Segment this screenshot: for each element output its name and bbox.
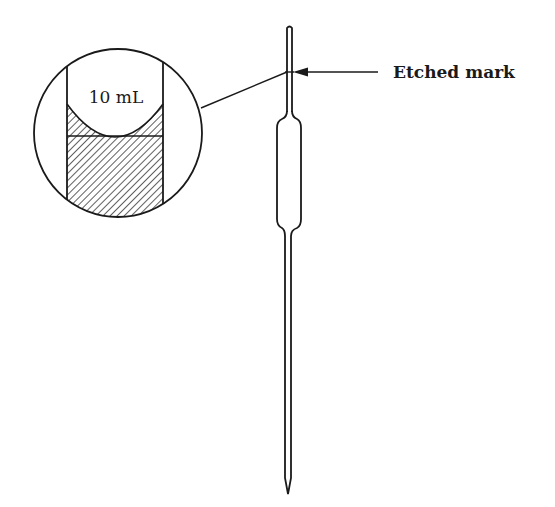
pipette-upper-stem bbox=[287, 27, 292, 113]
etched-mark-arrow bbox=[293, 68, 378, 77]
pipette-bulb bbox=[277, 111, 301, 236]
liquid-hatched-region bbox=[67, 104, 163, 225]
magnified-inset: 10 mL bbox=[34, 40, 202, 225]
arrowhead-icon bbox=[293, 68, 308, 77]
volume-label: 10 mL bbox=[89, 87, 143, 107]
etched-mark-label: Etched mark bbox=[393, 62, 516, 82]
pipette-lower-stem bbox=[285, 236, 291, 494]
connector-line bbox=[201, 72, 287, 108]
volumetric-pipette bbox=[277, 27, 301, 495]
pipette-diagram: 10 mL Etched mark bbox=[0, 0, 555, 507]
